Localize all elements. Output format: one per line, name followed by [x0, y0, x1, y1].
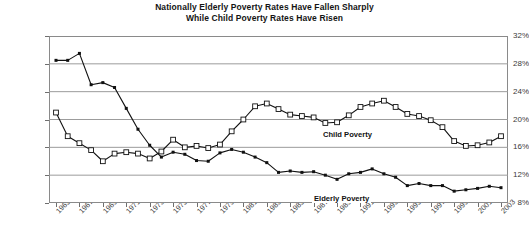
- data-point-marker: [113, 86, 116, 89]
- plot-area: Child Poverty Elderly Poverty: [49, 36, 508, 203]
- data-point-marker: [440, 125, 445, 130]
- data-point-marker: [335, 120, 340, 125]
- data-point-marker: [500, 186, 503, 189]
- data-point-marker: [242, 151, 245, 154]
- data-point-marker: [54, 110, 59, 115]
- data-point-marker: [230, 148, 233, 151]
- data-point-marker: [359, 171, 362, 174]
- data-point-marker: [148, 144, 151, 147]
- data-point-marker: [336, 178, 339, 181]
- data-point-marker: [276, 107, 281, 112]
- data-point-marker: [464, 188, 467, 191]
- data-point-marker: [405, 112, 410, 117]
- data-point-marker: [393, 105, 398, 110]
- data-point-marker: [323, 121, 328, 126]
- data-point-marker: [136, 128, 139, 131]
- data-point-marker: [195, 159, 198, 162]
- data-point-marker: [463, 144, 468, 149]
- series-layer: [49, 36, 508, 203]
- data-point-marker: [90, 83, 93, 86]
- data-point-marker: [100, 159, 105, 164]
- data-point-marker: [288, 112, 293, 117]
- data-point-marker: [265, 161, 268, 164]
- data-point-marker: [300, 171, 303, 174]
- data-point-marker: [66, 59, 69, 62]
- data-point-marker: [488, 185, 491, 188]
- data-point-marker: [417, 114, 422, 119]
- data-point-marker: [487, 140, 492, 145]
- data-point-marker: [218, 142, 223, 147]
- data-point-marker: [476, 187, 479, 190]
- chart-title-line-2: While Child Poverty Rates Have Risen: [0, 13, 529, 24]
- data-point-marker: [218, 151, 221, 154]
- series-child-poverty: [54, 98, 504, 163]
- data-point-marker: [475, 143, 480, 148]
- data-point-marker: [136, 151, 141, 156]
- data-point-marker: [371, 167, 374, 170]
- data-point-marker: [429, 184, 432, 187]
- data-point-marker: [194, 144, 199, 149]
- series-label-child-poverty: Child Poverty: [321, 130, 374, 139]
- data-point-marker: [159, 149, 164, 154]
- data-point-marker: [441, 184, 444, 187]
- data-point-marker: [406, 184, 409, 187]
- data-point-marker: [124, 150, 129, 155]
- data-point-marker: [370, 101, 375, 106]
- data-point-marker: [499, 134, 504, 139]
- data-point-marker: [394, 176, 397, 179]
- data-point-marker: [253, 104, 258, 109]
- data-point-marker: [172, 151, 175, 154]
- chart-title: Nationally Elderly Poverty Rates Have Fa…: [0, 2, 529, 24]
- data-point-marker: [311, 115, 316, 120]
- data-point-marker: [112, 151, 117, 156]
- data-point-marker: [147, 156, 152, 161]
- data-point-marker: [125, 107, 128, 110]
- poverty-rates-line-chart: Nationally Elderly Poverty Rates Have Fa…: [0, 0, 529, 238]
- data-point-marker: [324, 174, 327, 177]
- data-point-marker: [171, 137, 176, 142]
- data-point-marker: [428, 118, 433, 123]
- data-point-marker: [206, 146, 211, 151]
- data-point-marker: [55, 59, 58, 62]
- data-point-marker: [78, 52, 81, 55]
- data-point-marker: [300, 114, 305, 119]
- data-point-marker: [381, 98, 386, 103]
- data-point-marker: [452, 139, 457, 144]
- data-point-marker: [418, 182, 421, 185]
- data-point-marker: [382, 172, 385, 175]
- y-axis-tick-mark: [45, 203, 49, 204]
- data-point-marker: [277, 171, 280, 174]
- data-point-marker: [77, 141, 82, 146]
- data-point-marker: [453, 190, 456, 193]
- data-point-marker: [358, 105, 363, 110]
- chart-title-line-1: Nationally Elderly Poverty Rates Have Fa…: [0, 2, 529, 13]
- data-point-marker: [347, 172, 350, 175]
- data-point-marker: [89, 148, 94, 153]
- data-point-marker: [183, 153, 186, 156]
- data-point-marker: [229, 129, 234, 134]
- data-point-marker: [65, 134, 70, 139]
- data-point-marker: [160, 156, 163, 159]
- data-point-marker: [346, 113, 351, 118]
- data-point-marker: [264, 101, 269, 106]
- data-point-marker: [101, 81, 104, 84]
- data-point-marker: [254, 156, 257, 159]
- data-point-marker: [207, 160, 210, 163]
- data-point-marker: [241, 117, 246, 122]
- data-point-marker: [182, 145, 187, 150]
- data-point-marker: [312, 170, 315, 173]
- data-point-marker: [289, 169, 292, 172]
- series-label-elderly-poverty: Elderly Poverty: [312, 194, 371, 203]
